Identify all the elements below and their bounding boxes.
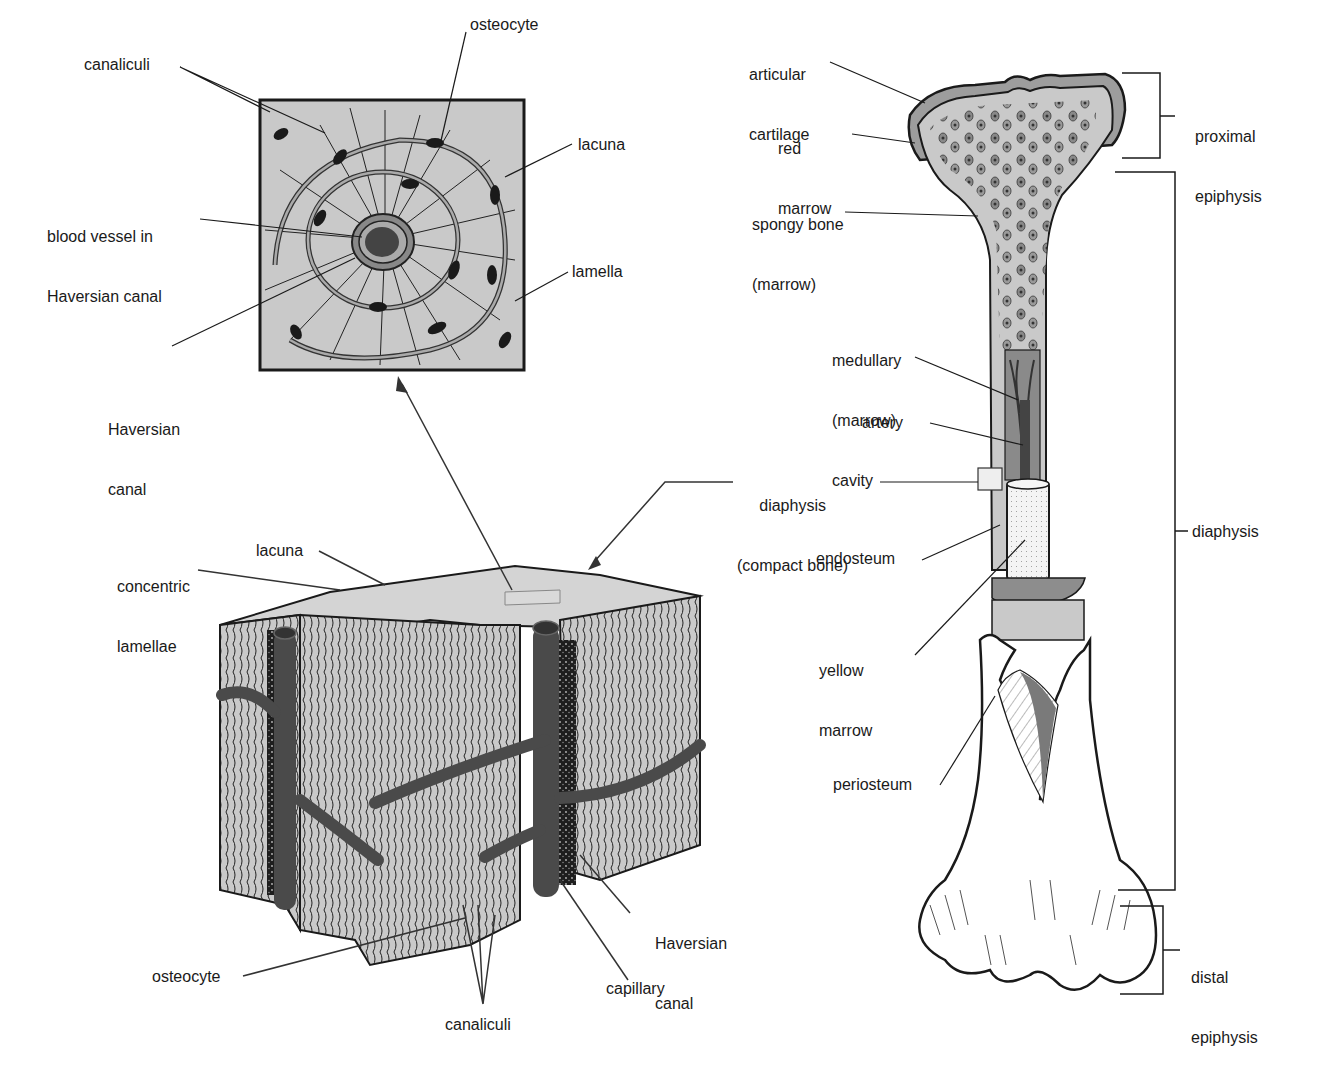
label-canaliculi-inset: canaliculi (84, 55, 150, 75)
label-spongy-bone: spongy bone (marrow) (752, 175, 844, 315)
label-diaphysis: diaphysis (1192, 522, 1259, 542)
label-blood-vessel: blood vessel in Haversian canal (47, 187, 162, 327)
label-lamella: lamella (572, 262, 623, 282)
bone-anatomy-diagram: canaliculi osteocyte lacuna blood vessel… (0, 0, 1320, 1072)
label-yellow-marrow: yellow marrow (819, 621, 872, 761)
label-proximal-epiphysis: proximal epiphysis (1195, 87, 1262, 227)
label-haversian-canal-block: Haversian canal (655, 894, 727, 1034)
haversian-system-inset (260, 100, 524, 370)
label-periosteum: periosteum (833, 775, 912, 795)
label-haversian-canal-inset: Haversian canal (108, 380, 180, 520)
arrow-head-up (396, 376, 408, 393)
label-osteocyte-block: osteocyte (152, 967, 220, 987)
label-diaphysis-compact-bone: diaphysis (compact bone) (737, 456, 848, 596)
compact-bone-block (220, 566, 700, 965)
label-osteocyte-inset: osteocyte (470, 15, 538, 35)
label-endosteum: endosteum (816, 549, 895, 569)
label-lacuna-inset: lacuna (578, 135, 625, 155)
region-brackets (1115, 73, 1188, 994)
label-lacuna-block: lacuna (256, 541, 303, 561)
long-bone (909, 74, 1156, 990)
label-canaliculi-block: canaliculi (445, 1015, 511, 1035)
label-distal-epiphysis: distal epiphysis (1191, 928, 1258, 1068)
label-concentric-lamellae: concentric lamellae (117, 537, 190, 677)
arrow-head-down (588, 556, 601, 570)
label-artery: artery (862, 413, 903, 433)
